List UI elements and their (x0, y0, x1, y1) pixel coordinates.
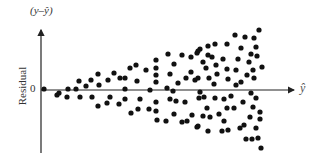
data-point (221, 96, 226, 101)
data-point (256, 27, 261, 32)
data-point (182, 99, 187, 104)
data-point (76, 78, 81, 83)
data-point (164, 85, 169, 90)
data-point (258, 145, 263, 150)
y-axis-top-label: (y–ŷ) (30, 4, 53, 16)
data-point (117, 75, 122, 80)
y-axis-label: Residual (16, 62, 28, 110)
data-point (89, 94, 94, 99)
residual-plot (0, 0, 323, 168)
data-point (197, 89, 202, 94)
data-point (173, 98, 178, 103)
data-point (153, 79, 158, 84)
data-point (153, 108, 158, 113)
data-point (134, 78, 139, 83)
data-point (246, 59, 251, 64)
data-point (170, 88, 175, 93)
data-point (216, 111, 221, 116)
data-point (214, 71, 219, 76)
data-point (250, 67, 255, 72)
data-point (251, 35, 256, 40)
data-point (65, 86, 70, 91)
data-point (128, 110, 133, 115)
data-point (111, 70, 116, 75)
data-point (211, 81, 216, 86)
data-point (184, 118, 189, 123)
data-point (257, 116, 262, 121)
data-point (189, 112, 194, 117)
data-point (221, 118, 226, 123)
data-point (153, 57, 158, 62)
data-point (212, 41, 217, 46)
data-point (105, 77, 110, 82)
data-point (248, 90, 253, 95)
data-point (88, 77, 93, 82)
data-point (253, 95, 258, 100)
data-point (253, 125, 258, 130)
data-point (235, 56, 240, 61)
data-point (147, 87, 152, 92)
data-point (127, 65, 132, 70)
data-point (248, 51, 253, 56)
data-point (200, 113, 205, 118)
data-point (135, 106, 140, 111)
data-point (251, 75, 256, 80)
data-point (240, 99, 245, 104)
data-point (122, 86, 127, 91)
data-point (73, 86, 78, 91)
data-point (207, 114, 212, 119)
data-point (224, 105, 229, 110)
data-point (137, 96, 142, 101)
data-points (41, 27, 264, 150)
data-point (209, 54, 214, 59)
data-point (233, 67, 238, 72)
data-point (224, 66, 229, 71)
data-point (244, 72, 249, 77)
y-tick-zero: 0 (30, 82, 36, 94)
data-point (228, 93, 233, 98)
data-point (171, 111, 176, 116)
data-point (175, 80, 180, 85)
data-point (104, 100, 109, 105)
data-point (241, 122, 246, 127)
data-point (83, 83, 88, 88)
data-point (143, 67, 148, 72)
data-point (107, 94, 112, 99)
data-point (41, 86, 46, 91)
data-point (253, 44, 258, 49)
data-point (213, 62, 218, 67)
data-point (133, 62, 138, 67)
data-point (167, 96, 172, 101)
data-point (64, 94, 69, 99)
data-point (231, 105, 236, 110)
data-point (116, 101, 121, 106)
data-point (154, 117, 159, 122)
x-axis-label: ŷ (300, 81, 305, 96)
data-point (205, 43, 210, 48)
data-point (153, 72, 158, 77)
data-point (212, 95, 217, 100)
data-point (188, 54, 193, 59)
data-point (188, 69, 193, 74)
data-point (254, 53, 259, 58)
data-point (196, 95, 201, 100)
data-point (250, 104, 255, 109)
data-point (146, 106, 151, 111)
data-point (232, 32, 237, 37)
data-point (95, 71, 100, 76)
data-point (179, 119, 184, 124)
data-point (195, 75, 200, 80)
data-point (77, 94, 82, 99)
data-point (259, 64, 264, 69)
data-point (153, 99, 158, 104)
data-point (205, 128, 210, 133)
data-point (204, 105, 209, 110)
data-point (183, 75, 188, 80)
data-point (165, 51, 170, 56)
data-point (195, 48, 200, 53)
data-point (200, 59, 205, 64)
data-point (122, 75, 127, 80)
data-point (257, 109, 262, 114)
data-point (95, 103, 100, 108)
data-point (255, 135, 260, 140)
